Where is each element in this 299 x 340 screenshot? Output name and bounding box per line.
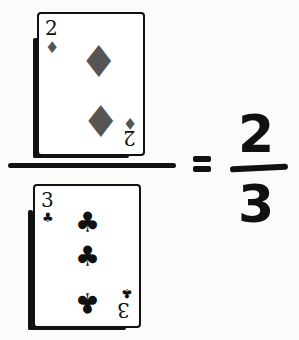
playing-card-two-of-diamonds: 2 ♦ ♦ ♦ ♦ 2: [37, 12, 145, 156]
club-icon: ♣: [75, 286, 100, 319]
diamond-icon: ♦: [81, 96, 120, 147]
result-numerator: 2: [238, 108, 274, 160]
card-rank-bottom: 2: [123, 128, 136, 148]
card-rank-top: 2: [45, 18, 58, 38]
result-fraction-bar: [230, 163, 288, 172]
diamond-icon: ♦: [79, 36, 118, 87]
card-rank-bottom: 3: [117, 300, 130, 320]
playing-card-three-of-clubs: 3 ♣ ♣ ♣ ♣ ♣ 3: [33, 184, 141, 328]
club-icon: ♣: [42, 210, 54, 225]
club-icon: ♣: [75, 206, 100, 239]
club-icon: ♣: [75, 240, 100, 273]
card-rank-top: 3: [41, 190, 54, 210]
equals-sign: [193, 156, 211, 172]
result-denominator: 3: [238, 178, 274, 230]
fraction-bar: [8, 163, 176, 168]
diamond-icon: ♦: [45, 38, 59, 57]
